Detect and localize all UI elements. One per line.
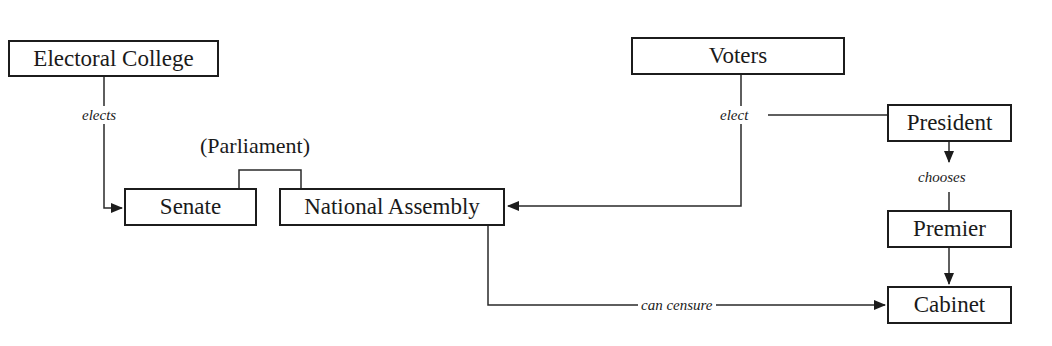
node-president: President bbox=[887, 104, 1012, 142]
node-label: President bbox=[907, 110, 993, 136]
node-label: Premier bbox=[913, 216, 986, 242]
node-cabinet: Cabinet bbox=[887, 286, 1012, 324]
edge-label-chooses: chooses bbox=[915, 168, 969, 186]
edge-label-elects: elects bbox=[79, 106, 119, 124]
edge-national-assembly-to-cabinet bbox=[488, 226, 885, 305]
edge-label-can-censure: can censure bbox=[638, 296, 716, 314]
parliament-bracket bbox=[239, 170, 301, 188]
node-senate: Senate bbox=[124, 188, 257, 226]
node-label: National Assembly bbox=[304, 194, 480, 220]
node-electoral-college: Electoral College bbox=[8, 40, 219, 77]
node-label: Voters bbox=[709, 43, 767, 69]
edge-label-elect: elect bbox=[717, 106, 751, 124]
node-voters: Voters bbox=[631, 37, 845, 75]
parliament-group-label: (Parliament) bbox=[200, 133, 310, 159]
edge-voters-to-national-assembly bbox=[508, 75, 741, 206]
node-label: Senate bbox=[160, 194, 221, 220]
node-label: Cabinet bbox=[914, 292, 986, 318]
node-label: Electoral College bbox=[33, 46, 193, 72]
node-national-assembly: National Assembly bbox=[279, 188, 505, 226]
node-premier: Premier bbox=[887, 210, 1012, 248]
edge-electoral-college-to-senate bbox=[104, 77, 122, 208]
